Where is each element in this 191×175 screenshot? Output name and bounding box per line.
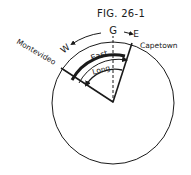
west-direction-label: W [59, 42, 72, 55]
figure-title: FIG. 26-1 [97, 8, 145, 19]
east-direction-arrow [124, 32, 132, 34]
capetown-meridian [113, 43, 132, 102]
longitude-arc-label: Long. [91, 63, 113, 77]
west-direction-arrow [72, 33, 101, 44]
greenwich-label: G [109, 25, 117, 36]
east-direction-label: E [133, 29, 139, 39]
montevideo-label: Montevideo [15, 37, 58, 67]
capetown-label: Capetown [140, 41, 178, 50]
longitude-diagram: FIG. 26-1 G E W Montevideo Capetown East… [0, 0, 191, 175]
